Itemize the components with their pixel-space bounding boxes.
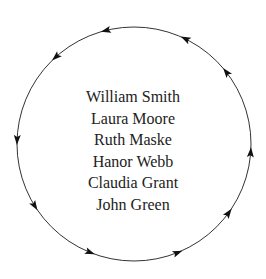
arrowhead-icon: [179, 33, 191, 44]
name-item: Laura Moore: [0, 108, 266, 130]
arrowhead-icon: [84, 247, 96, 257]
arrowhead-icon: [100, 26, 111, 35]
cycle-diagram: William Smith Laura Moore Ruth Maske Han…: [0, 0, 266, 279]
arrowhead-icon: [172, 247, 184, 257]
name-item: Ruth Maske: [0, 129, 266, 151]
name-item: William Smith: [0, 86, 266, 108]
name-item: Claudia Grant: [0, 172, 266, 194]
name-item: Hanor Webb: [0, 151, 266, 173]
name-item: John Green: [0, 194, 266, 216]
names-list: William Smith Laura Moore Ruth Maske Han…: [0, 86, 266, 215]
